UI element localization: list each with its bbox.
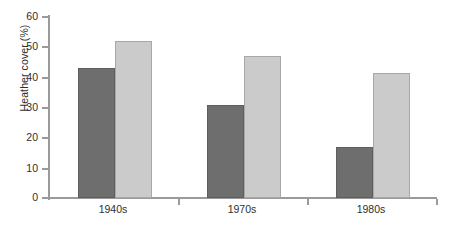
plot-area — [48, 17, 437, 198]
bar-chart: Heather cover (%) 60 50 40 30 20 10 0 19… — [0, 0, 453, 227]
y-tick-label-0: 0 — [0, 191, 38, 203]
x-tick-2 — [307, 199, 309, 205]
x-label-1970s: 1970s — [187, 203, 297, 215]
bar-1980s-series-2 — [373, 73, 410, 198]
y-tick-label-40: 40 — [0, 71, 38, 83]
y-tick-label-10: 10 — [0, 162, 38, 174]
x-label-1980s: 1980s — [316, 203, 426, 215]
x-tick-3 — [436, 199, 438, 205]
y-tick-label-20: 20 — [0, 131, 38, 143]
bar-1970s-series-1 — [207, 105, 244, 199]
bar-1940s-series-2 — [115, 41, 152, 198]
bar-1970s-series-2 — [244, 56, 281, 198]
y-tick-label-50: 50 — [0, 40, 38, 52]
y-tick-label-30: 30 — [0, 101, 38, 113]
y-tick-label-60: 60 — [0, 10, 38, 22]
x-label-1940s: 1940s — [58, 203, 168, 215]
bar-1940s-series-1 — [78, 68, 115, 198]
x-tick-1 — [178, 199, 180, 205]
bar-1980s-series-1 — [336, 147, 373, 198]
